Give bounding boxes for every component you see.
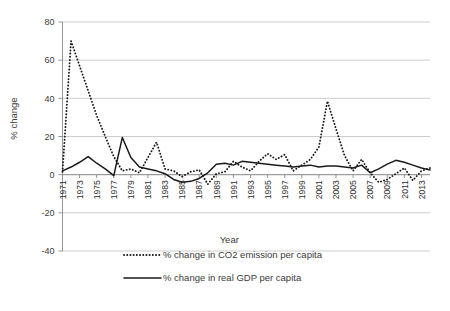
- x-tick-label: 1991: [229, 180, 239, 199]
- x-tick-label: 1977: [109, 180, 119, 199]
- y-axis-title-text: % change: [8, 97, 19, 139]
- data-series-group: [63, 41, 431, 184]
- line-chart: -40-20020406080 197119731975197719791981…: [0, 0, 450, 311]
- x-tick-labels-group: 1971197319751977197919811983198519871989…: [58, 180, 427, 199]
- y-tick-marks-group: [59, 22, 63, 251]
- y-tick-label: -40: [41, 246, 54, 256]
- x-tick-label: 1975: [92, 180, 102, 199]
- y-tick-label: 40: [44, 94, 54, 104]
- series-line-1: [63, 41, 431, 184]
- x-tick-label: 2009: [382, 180, 392, 199]
- y-tick-label: 60: [44, 55, 54, 65]
- x-tick-label: 1971: [58, 180, 68, 199]
- x-tick-label: 1993: [246, 180, 256, 199]
- y-tick-label: 0: [49, 170, 54, 180]
- x-tick-marks-group: [63, 175, 422, 179]
- y-tick-label: -20: [41, 208, 54, 218]
- y-axis-title: % change: [8, 97, 19, 139]
- x-tick-label: 1997: [280, 180, 290, 199]
- x-tick-label: 2007: [365, 180, 375, 199]
- x-tick-label: 1981: [143, 180, 153, 199]
- y-tick-label: 80: [44, 17, 54, 27]
- x-tick-label: 1989: [212, 180, 222, 199]
- chart-legend: % change in CO2 emission per capita% cha…: [124, 249, 323, 283]
- x-tick-label: 2011: [400, 180, 410, 199]
- legend-label-1: % change in CO2 emission per capita: [163, 249, 323, 260]
- chart-container: -40-20020406080 197119731975197719791981…: [0, 0, 450, 311]
- x-tick-label: 2013: [417, 180, 427, 199]
- gridlines-group: [63, 22, 431, 251]
- x-tick-label: 2003: [331, 180, 341, 199]
- series-line-2: [63, 137, 431, 182]
- x-tick-label: 1979: [126, 180, 136, 199]
- y-tick-labels-group: -40-20020406080: [41, 17, 54, 256]
- x-tick-label: 1995: [263, 180, 273, 199]
- x-tick-label: 2005: [348, 180, 358, 199]
- y-tick-label: 20: [44, 132, 54, 142]
- x-tick-label: 1983: [160, 180, 170, 199]
- x-tick-label: 1999: [297, 180, 307, 199]
- legend-label-2: % change in real GDP per capita: [163, 272, 302, 283]
- x-axis-title-text: Year: [220, 234, 239, 245]
- x-tick-label: 1973: [75, 180, 85, 199]
- x-tick-label: 2001: [314, 180, 324, 199]
- x-axis-title: Year: [220, 234, 239, 245]
- x-tick-label: 1987: [194, 180, 204, 199]
